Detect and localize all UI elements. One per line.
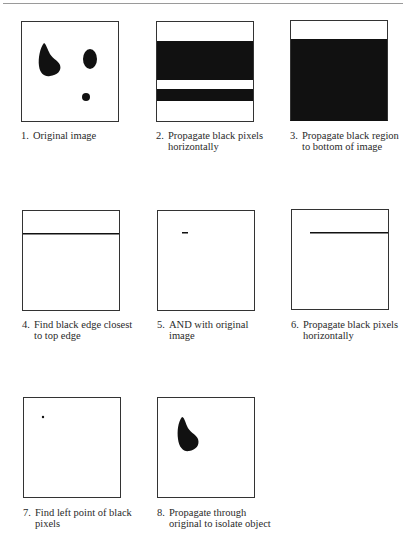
caption-step-3: 3. Propagate black region to bottom of i… <box>290 130 406 152</box>
caption-step-1: 1. Original image <box>21 130 139 141</box>
panel-propagate-horizontal <box>156 21 254 122</box>
and-result-segment <box>158 211 254 310</box>
panel-isolate-object <box>157 397 255 498</box>
top-edge-line <box>23 211 119 310</box>
top-rule <box>3 3 403 4</box>
caption-step-2: 2. Propagate black pixels horizontally <box>156 130 274 152</box>
caption-step-6: 6. Propagate black pixels horizontally <box>291 319 406 341</box>
panel-propagate-to-bottom <box>290 20 388 121</box>
panel-propagate-horizontal-2 <box>291 209 389 310</box>
panel-and-original <box>157 210 255 311</box>
caption-step-5: 5. AND with original image <box>157 319 275 341</box>
propagated-line <box>292 210 388 309</box>
filled-region <box>291 21 387 120</box>
caption-step-4: 4. Find black edge closest to top edge <box>22 319 140 341</box>
isolated-object <box>158 398 254 497</box>
horizontal-bands <box>157 22 253 121</box>
left-point-dot <box>24 398 120 497</box>
caption-step-7: 7. Find left point of black pixels <box>23 507 141 529</box>
caption-step-8: 8. Propagate through original to isolate… <box>157 507 275 529</box>
panel-original-image <box>21 21 119 122</box>
panel-find-top-edge <box>22 210 120 311</box>
panel-find-left-point <box>23 397 121 498</box>
original-image-blobs <box>22 22 118 121</box>
